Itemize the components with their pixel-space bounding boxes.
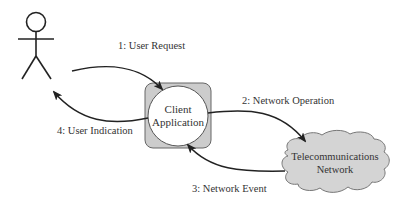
network-label-line1: Telecommunications: [291, 151, 378, 162]
client-label-line1: Client: [165, 103, 192, 115]
edge-label-user-request: 1: User Request: [118, 40, 185, 51]
edge-label-network-event: 3: Network Event: [192, 183, 267, 194]
user-actor-icon: [18, 13, 54, 80]
network-label-line2: Network: [317, 164, 354, 175]
edge-network-event: 3: Network Event: [188, 145, 285, 194]
edge-label-user-indication: 4: User Indication: [57, 125, 134, 136]
edge-label-network-operation: 2: Network Operation: [242, 95, 335, 106]
sequence-diagram: Client Application Telecommunications Ne…: [0, 0, 410, 216]
client-application-node: Client Application: [145, 83, 211, 148]
edge-user-request: 1: User Request: [72, 40, 185, 89]
client-label-line2: Application: [152, 116, 204, 128]
edge-user-indication: 4: User Indication: [54, 92, 148, 136]
telecommunications-network-cloud: Telecommunications Network: [282, 130, 389, 192]
